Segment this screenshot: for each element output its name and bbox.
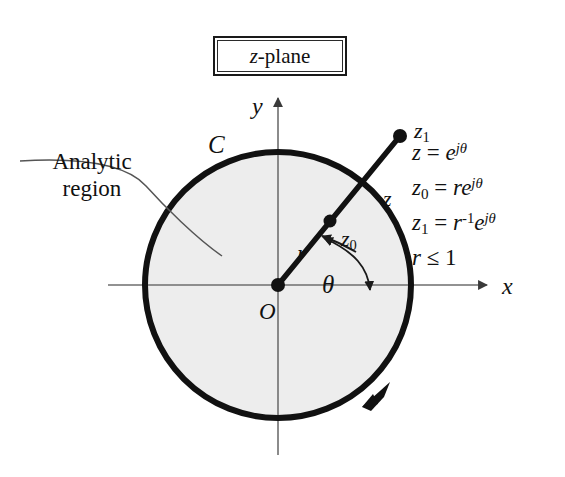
constraint-relation: ≤ [421, 245, 445, 270]
figure-canvas: z-plane Analytic region C y x O r θ z z0… [0, 0, 565, 477]
equation-lhs: z [412, 140, 421, 165]
equation-row: z1 = r-1ejθ [412, 210, 562, 245]
z-plane-title-text: z-plane [250, 44, 311, 69]
equation-lhs-subscript: 1 [421, 220, 429, 237]
y-axis-label: y [252, 94, 263, 118]
title-plane-suffix: -plane [258, 44, 310, 68]
equals-sign: = [421, 140, 445, 165]
analytic-region-line-1: Analytic [22, 148, 162, 175]
analytic-region-line-2: region [22, 175, 162, 202]
radius-label-r: r [297, 241, 306, 265]
point-z1-marker [393, 129, 407, 143]
constraint-symbol: r [412, 245, 421, 270]
analytic-region-label: Analytic region [22, 148, 162, 202]
equation-list: z = ejθz0 = rejθz1 = r-1ejθr ≤ 1 [412, 140, 562, 280]
equals-sign: = [429, 175, 453, 200]
equals-sign: = [429, 210, 453, 235]
z0-subscript: 0 [350, 237, 357, 253]
point-label-z0: z0 [341, 228, 357, 253]
equation-exp-base: e [445, 140, 455, 165]
origin-label: O [259, 300, 276, 323]
contour-label-C: C [208, 132, 225, 157]
equation-lhs-subscript: 0 [421, 185, 429, 202]
equation-lhs: z [412, 210, 421, 235]
equation-exp-base: e [474, 210, 484, 235]
equation-exponent: jθ [471, 175, 482, 191]
title-z-symbol: z [250, 44, 258, 68]
equation-coefficient: r [453, 210, 462, 235]
equation-exponent: jθ [456, 140, 467, 156]
equation-lhs: z [412, 175, 421, 200]
z0-base: z [341, 226, 350, 251]
equation-row: z = ejθ [412, 140, 562, 175]
angle-label-theta: θ [322, 272, 334, 297]
point-z0-marker [324, 215, 337, 228]
constraint-row: r ≤ 1 [412, 245, 562, 280]
equation-coefficient-exponent: -1 [462, 210, 474, 226]
point-label-z: z [383, 188, 392, 210]
z-plane-title-box: z-plane [213, 36, 347, 76]
equation-coefficient: r [453, 175, 461, 200]
origin-point [271, 278, 285, 292]
constraint-value: 1 [445, 245, 457, 270]
equation-exponent: jθ [484, 210, 495, 226]
equation-row: z0 = rejθ [412, 175, 562, 210]
equation-exp-base: e [461, 175, 471, 200]
